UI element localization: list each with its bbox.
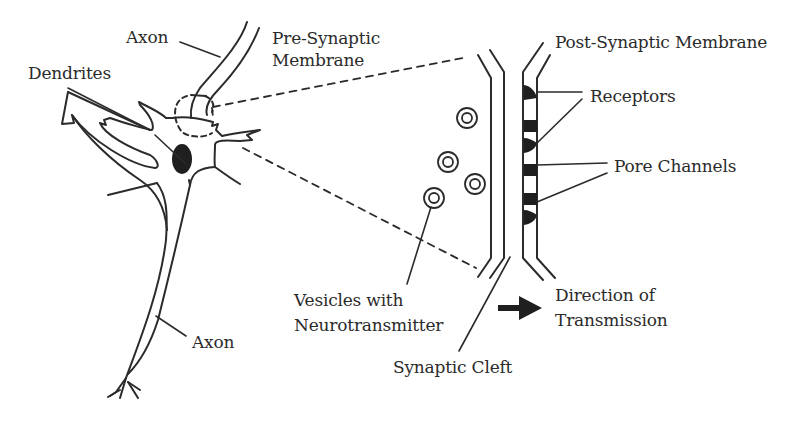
label-dendrites: Dendrites (28, 63, 111, 84)
axon-top (191, 22, 259, 118)
label-synaptic-cleft: Synaptic Cleft (393, 357, 512, 378)
label-receptors: Receptors (590, 86, 675, 107)
nucleus (172, 144, 192, 174)
label-direction-2: Transmission (555, 310, 668, 331)
neuron-cell-body (62, 92, 260, 230)
label-pre-synaptic-2: Membrane (272, 50, 364, 71)
zoom-lines (212, 57, 476, 268)
synapse-diagram: Axon Dendrites Pre-Synaptic Membrane Pos… (0, 0, 805, 424)
label-axon-bottom: Axon (192, 332, 234, 353)
pre-synaptic-membrane (478, 50, 504, 278)
label-pre-synaptic-1: Pre-Synaptic (272, 28, 380, 49)
axon-bottom-leader (156, 316, 186, 336)
label-vesicles-2: Neurotransmitter (294, 315, 443, 336)
label-pore-channels: Pore Channels (614, 156, 736, 177)
label-axon-top: Axon (126, 27, 168, 48)
synaptic-cleft-leader (459, 257, 510, 351)
post-synaptic-membrane (523, 43, 555, 280)
label-vesicles-1: Vesicles with (294, 290, 403, 311)
direction-arrow-icon (498, 296, 542, 320)
label-post-synaptic: Post-Synaptic Membrane (555, 32, 767, 53)
synapse-leader-lines (537, 92, 607, 202)
vesicles (424, 108, 485, 208)
axon-bottom (108, 183, 190, 398)
label-direction-1: Direction of (555, 285, 655, 306)
pore-channels (524, 120, 537, 205)
vesicle-leader (407, 207, 431, 284)
